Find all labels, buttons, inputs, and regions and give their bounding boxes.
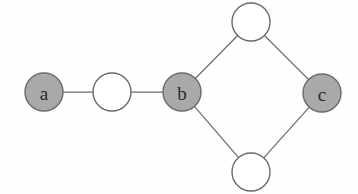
graph-edge-b-bm <box>194 106 238 157</box>
graph-node-bm[interactable] <box>232 153 270 191</box>
node-circle-n1[interactable] <box>93 73 131 111</box>
graph-node-b[interactable]: b <box>163 73 201 111</box>
node-circle-bm[interactable] <box>232 153 270 191</box>
graph-node-c[interactable]: c <box>303 74 341 112</box>
graph-edge-t-c <box>264 35 308 79</box>
graph-edge-b-t <box>195 36 237 79</box>
graph-node-a[interactable]: a <box>25 73 63 111</box>
graph-edge-bm-c <box>264 107 310 158</box>
graph-node-t[interactable] <box>232 3 270 41</box>
nodes-group: abc <box>25 3 341 191</box>
node-label-b: b <box>177 83 187 104</box>
node-label-c: c <box>318 84 326 105</box>
graph-figure: abc <box>0 0 358 194</box>
node-label-a: a <box>40 83 49 104</box>
graph-node-n1[interactable] <box>93 73 131 111</box>
node-circle-t[interactable] <box>232 3 270 41</box>
graph-canvas: abc <box>0 0 358 194</box>
